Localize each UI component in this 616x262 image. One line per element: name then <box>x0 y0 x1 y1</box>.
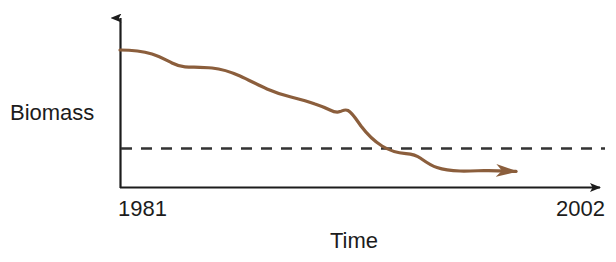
biomass-time-chart: Biomass Time 1981 2002 <box>0 0 616 262</box>
x-tick-label-end: 2002 <box>556 196 605 222</box>
y-axis-title: Biomass <box>10 100 94 126</box>
chart-canvas <box>0 0 616 262</box>
x-tick-label-start: 1981 <box>118 196 167 222</box>
x-axis-title: Time <box>330 228 378 254</box>
biomass-trend-curve <box>120 50 516 171</box>
